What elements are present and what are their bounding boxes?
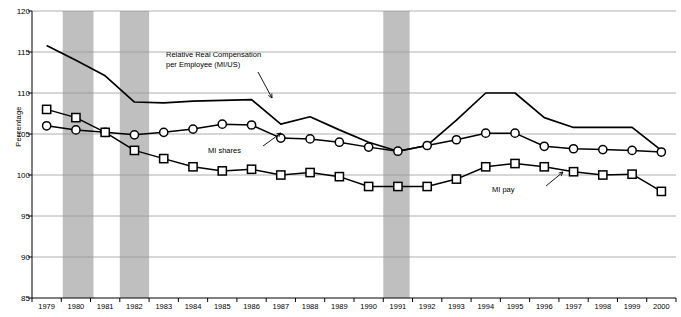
chart-container: Percentage 120 115 110 105 100 95 90 85 … [0,0,681,317]
data-point [540,163,548,171]
data-point [130,131,138,139]
data-point [72,114,80,122]
arrow-compensation [258,72,272,98]
data-point [335,138,343,146]
data-point [423,141,431,149]
data-point [43,122,51,130]
data-point [628,170,636,178]
data-point [101,128,109,136]
data-point [657,148,665,156]
data-point [189,163,197,171]
recession-band-1 [63,11,94,298]
data-point [511,159,519,167]
data-point [306,135,314,143]
data-point [423,182,431,190]
arrow-mi-pay [546,172,563,186]
data-point [72,126,80,134]
data-point [130,146,138,154]
data-point [43,105,51,113]
data-point [452,136,460,144]
recession-bands [63,11,410,298]
data-point [160,128,168,136]
data-point [569,168,577,176]
data-point [511,129,519,137]
data-point [247,165,255,173]
data-point [365,143,373,151]
data-point [218,120,226,128]
data-point [657,187,665,195]
data-point [599,171,607,179]
plot-area [0,0,681,317]
data-point [306,168,314,176]
data-point [540,142,548,150]
data-point [482,129,490,137]
data-point [394,147,402,155]
data-point [160,155,168,163]
data-point [628,146,636,154]
data-point [189,125,197,133]
data-point [365,182,373,190]
data-point [335,173,343,181]
data-point [247,121,255,129]
data-point [277,171,285,179]
x-tick-label-2000: 2000 [644,302,678,311]
data-point [218,167,226,175]
data-point [569,145,577,153]
data-point [394,182,402,190]
data-point [482,163,490,171]
data-point [599,145,607,153]
data-point [452,175,460,183]
